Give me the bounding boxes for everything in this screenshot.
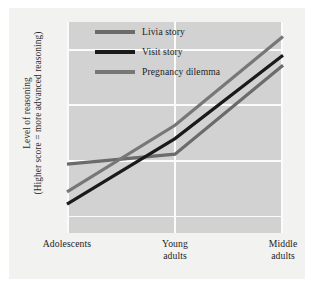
chart-legend: Livia storyVisit storyPregnancy dilemma — [95, 26, 220, 77]
legend-swatch-icon — [95, 70, 135, 74]
legend-item: Pregnancy dilemma — [95, 66, 220, 77]
legend-swatch-icon — [95, 50, 135, 54]
y-axis-title-line-1: Level of reasoning — [22, 77, 33, 149]
series-line — [67, 55, 283, 204]
legend-item-label: Pregnancy dilemma — [142, 66, 220, 77]
x-axis-tick-label: Middle adults — [269, 238, 298, 262]
x-axis-tick-labels: AdolescentsYoung adultsMiddle adults — [0, 238, 314, 278]
legend-swatch-icon — [95, 30, 135, 34]
legend-item: Livia story — [95, 26, 220, 37]
y-axis-title-line-2: (Higher score = more advanced reasoning) — [33, 32, 44, 195]
y-axis-title: Level of reasoning (Higher score = more … — [16, 18, 50, 208]
chart-figure: Level of reasoning (Higher score = more … — [0, 0, 314, 292]
x-axis-tick-label: Adolescents — [43, 238, 91, 250]
legend-item: Visit story — [95, 46, 220, 57]
legend-item-label: Visit story — [142, 46, 183, 57]
x-axis-tick-label: Young adults — [162, 238, 188, 262]
legend-item-label: Livia story — [142, 26, 185, 37]
